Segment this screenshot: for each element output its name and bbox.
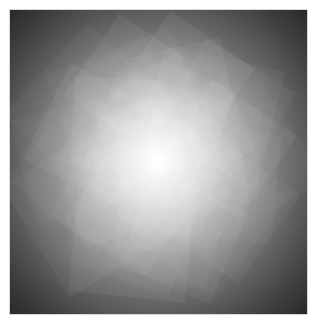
- abstract-artwork: [10, 10, 307, 314]
- polygon-burst-graphic: [10, 10, 307, 314]
